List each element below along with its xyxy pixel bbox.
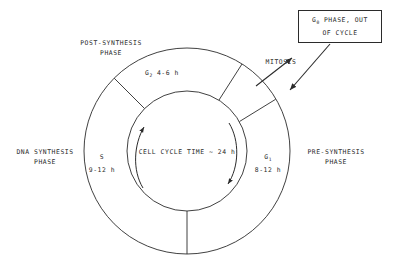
dna-synthesis-phase-line-2: PHASE — [16, 157, 73, 167]
cell-cycle-time-label: CELL CYCLE TIME ~ 24 h — [139, 147, 236, 157]
divider-s-g2 — [114, 78, 144, 108]
g0-phase-box[interactable]: G0 PHASE, OUT OF CYCLE — [298, 10, 382, 43]
g1-phase-label: G1 8-12 h — [255, 152, 281, 175]
g1-phase-symbol: G1 — [255, 152, 281, 165]
inner-cycle-arrow-left — [136, 127, 144, 188]
g2-phase-label: G2 4-6 h — [145, 68, 179, 81]
g1-phase-duration: 8-12 h — [255, 165, 281, 175]
post-synthesis-phase-label: POST-SYNTHESIS PHASE — [80, 38, 142, 58]
cell-cycle-diagram-page: G0 PHASE, OUT OF CYCLE MITOSIS POST-SYNT… — [0, 0, 394, 273]
dna-synthesis-phase-line-1: DNA SYNTHESIS — [16, 147, 73, 157]
mitosis-label: MITOSIS — [266, 57, 297, 67]
divider-g2-mitosis — [219, 64, 242, 100]
g0-box-line-1: G0 PHASE, OUT — [312, 15, 368, 28]
post-synthesis-phase-line-1: POST-SYNTHESIS — [80, 38, 142, 48]
post-synthesis-phase-line-2: PHASE — [80, 48, 142, 58]
s-phase-symbol: S — [89, 152, 115, 165]
s-phase-label: S 9-12 h — [89, 152, 115, 175]
g0-box-line-2: OF CYCLE — [322, 28, 357, 38]
s-phase-duration: 9-12 h — [89, 165, 115, 175]
divider-mitosis-g1 — [240, 99, 276, 121]
arrow-back-into-cycle — [290, 44, 330, 90]
pre-synthesis-phase-line-2: PHASE — [307, 157, 364, 167]
pre-synthesis-phase-label: PRE-SYNTHESIS PHASE — [307, 147, 364, 167]
pre-synthesis-phase-line-1: PRE-SYNTHESIS — [307, 147, 364, 157]
dna-synthesis-phase-label: DNA SYNTHESIS PHASE — [16, 147, 73, 167]
